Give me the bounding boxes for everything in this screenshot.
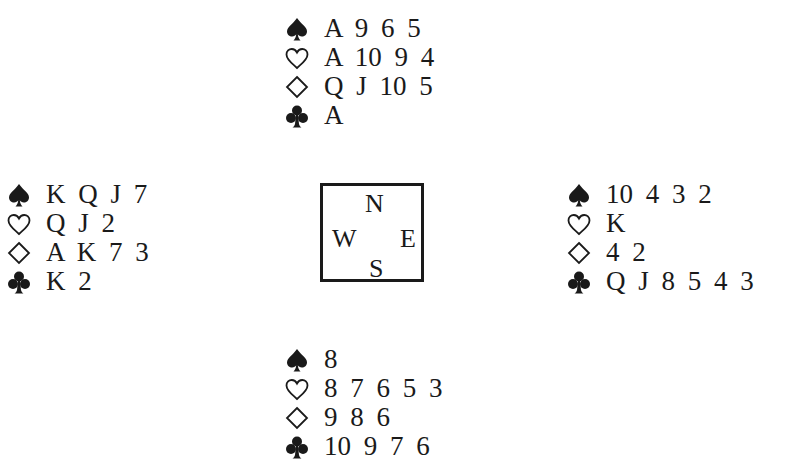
west-clubs-row: K 2 <box>6 267 149 296</box>
south-hearts-cards: 8 7 6 5 3 <box>324 374 443 403</box>
north-clubs-row: A <box>284 101 434 130</box>
south-clubs-cards: 10 9 7 6 <box>324 432 430 461</box>
heart-icon <box>284 45 310 71</box>
south-spades-row: 8 <box>284 345 443 374</box>
east-hearts-cards: K <box>606 209 626 238</box>
heart-icon <box>566 211 592 237</box>
north-hearts-row: A 10 9 4 <box>284 43 434 72</box>
hand-south: 8 8 7 6 5 3 9 8 6 10 9 7 6 <box>284 345 443 461</box>
south-clubs-row: 10 9 7 6 <box>284 432 443 461</box>
spade-icon <box>284 16 310 42</box>
compass-south-label: S <box>369 256 383 282</box>
hand-east: 10 4 3 2 K 4 2 Q J 8 5 4 3 <box>566 180 754 296</box>
north-hearts-cards: A 10 9 4 <box>324 43 434 72</box>
north-clubs-cards: A <box>324 101 344 130</box>
club-icon <box>284 434 310 460</box>
club-icon <box>566 269 592 295</box>
east-hearts-row: K <box>566 209 754 238</box>
north-diamonds-row: Q J 10 5 <box>284 72 434 101</box>
west-hearts-row: Q J 2 <box>6 209 149 238</box>
east-diamonds-cards: 4 2 <box>606 238 646 267</box>
club-icon <box>284 103 310 129</box>
hand-north: A 9 6 5 A 10 9 4 Q J 10 5 A <box>284 14 434 130</box>
compass-box: N W E S <box>320 183 424 282</box>
south-spades-cards: 8 <box>324 345 338 374</box>
west-spades-cards: K Q J 7 <box>46 180 147 209</box>
north-spades-row: A 9 6 5 <box>284 14 434 43</box>
east-spades-cards: 10 4 3 2 <box>606 180 712 209</box>
diamond-icon <box>566 240 592 266</box>
west-hearts-cards: Q J 2 <box>46 209 115 238</box>
hand-west: K Q J 7 Q J 2 A K 7 3 K 2 <box>6 180 149 296</box>
west-clubs-cards: K 2 <box>46 267 92 296</box>
east-clubs-cards: Q J 8 5 4 3 <box>606 267 754 296</box>
compass-west-label: W <box>332 226 357 252</box>
heart-icon <box>6 211 32 237</box>
heart-icon <box>284 376 310 402</box>
diamond-icon <box>6 240 32 266</box>
east-clubs-row: Q J 8 5 4 3 <box>566 267 754 296</box>
spade-icon <box>284 347 310 373</box>
west-diamonds-row: A K 7 3 <box>6 238 149 267</box>
east-spades-row: 10 4 3 2 <box>566 180 754 209</box>
west-spades-row: K Q J 7 <box>6 180 149 209</box>
north-spades-cards: A 9 6 5 <box>324 14 421 43</box>
club-icon <box>6 269 32 295</box>
south-hearts-row: 8 7 6 5 3 <box>284 374 443 403</box>
west-diamonds-cards: A K 7 3 <box>46 238 149 267</box>
diamond-icon <box>284 405 310 431</box>
south-diamonds-cards: 9 8 6 <box>324 403 390 432</box>
south-diamonds-row: 9 8 6 <box>284 403 443 432</box>
east-diamonds-row: 4 2 <box>566 238 754 267</box>
spade-icon <box>566 182 592 208</box>
spade-icon <box>6 182 32 208</box>
compass-east-label: E <box>400 226 416 252</box>
compass-north-label: N <box>365 191 384 217</box>
north-diamonds-cards: Q J 10 5 <box>324 72 433 101</box>
diamond-icon <box>284 74 310 100</box>
